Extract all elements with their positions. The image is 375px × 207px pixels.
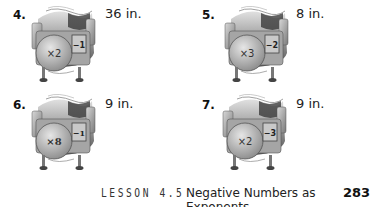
problem-number: 6.: [13, 98, 26, 112]
lesson-label: LESSON 4.5: [101, 186, 184, 200]
length-value: 36 in.: [105, 6, 142, 21]
problem-6: 6. ×8 −1 9 in.: [0, 90, 190, 180]
multiplier-label: ×8: [46, 136, 61, 147]
problem-number: 7.: [202, 98, 215, 112]
exponent-label: −2: [266, 41, 278, 50]
problem-5: 5. ×3 −2 8 in.: [190, 0, 375, 90]
multiplier-label: ×3: [240, 48, 255, 59]
stretching-machine-icon: ×3 −2: [221, 5, 291, 83]
length-value: 9 in.: [105, 96, 133, 111]
exponent-label: −1: [73, 41, 86, 50]
stretching-machine-icon: ×2 −1: [28, 5, 98, 83]
length-value: 8 in.: [296, 6, 324, 21]
exponent-label: −1: [73, 128, 85, 138]
multiplier-label: ×2: [47, 48, 62, 59]
page-footer: LESSON 4.5 Negative Numbers as Exponents…: [0, 185, 375, 203]
multiplier-label: ×2: [238, 136, 253, 147]
exponent-label: −3: [264, 129, 276, 138]
problem-7: 7. ×2 −3 9 in.: [190, 90, 375, 180]
page-number: 283: [343, 185, 370, 200]
stretching-machine-icon: ×8 −1: [28, 93, 98, 171]
problem-number: 4.: [13, 8, 26, 22]
problem-number: 5.: [202, 8, 215, 22]
length-value: 9 in.: [296, 96, 324, 111]
stretching-machine-icon: ×2 −3: [219, 93, 289, 171]
problem-4: 4. ×2 −1 36 in.: [0, 0, 190, 90]
